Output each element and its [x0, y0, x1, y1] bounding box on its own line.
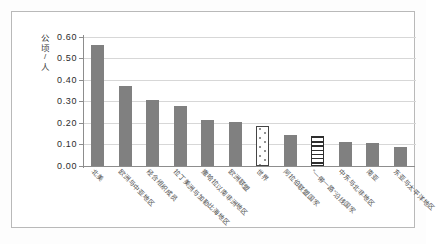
bar-slot: [139, 37, 167, 166]
y-tick-label: 0.60: [57, 32, 77, 42]
bar-slot: [332, 37, 360, 166]
bar-slot: [167, 37, 195, 166]
bar[interactable]: [91, 45, 104, 165]
y-tick-label: 0.40: [57, 75, 77, 85]
bar[interactable]: [284, 135, 297, 165]
bar[interactable]: [366, 143, 379, 166]
bar[interactable]: [201, 120, 214, 165]
y-tick-label: 0.20: [57, 118, 77, 128]
x-axis-label: 撒哈拉以南非洲地区: [200, 168, 249, 217]
bar-slot: [222, 37, 250, 166]
bar-slot: [112, 37, 140, 166]
x-axis-label: 东亚与太平洋地区: [392, 168, 436, 212]
bar[interactable]: [174, 106, 187, 165]
bar-slot: [304, 37, 332, 166]
x-axis-label: 北美: [90, 168, 105, 183]
bar[interactable]: [394, 147, 407, 165]
bar-slot: [387, 37, 415, 166]
bar-slot: [84, 37, 112, 166]
y-axis-title-char-3: /: [35, 52, 55, 62]
bar[interactable]: [119, 86, 132, 166]
bar[interactable]: [311, 136, 324, 165]
y-tick-label: 0.50: [57, 53, 77, 63]
x-axis-line: [83, 166, 415, 167]
bar-slot: [277, 37, 305, 166]
x-axis-label: 世界: [255, 168, 270, 183]
y-tick-label: 0.30: [57, 96, 77, 106]
bar[interactable]: [256, 126, 269, 166]
y-axis-title-char-4: 人: [35, 63, 55, 73]
bar-slot: [194, 37, 222, 166]
y-tick-label: 0.00: [57, 161, 77, 171]
y-tick-label: 0.10: [57, 139, 77, 149]
x-axis-label: 南亚: [365, 168, 380, 183]
figure-frame: 公 顷 / 人 0.600.500.400.300.200.100.00 北美欧…: [11, 11, 415, 228]
bar[interactable]: [229, 122, 242, 166]
bar-slot: [249, 37, 277, 166]
bar[interactable]: [146, 100, 159, 165]
y-axis-title: 公 顷 / 人: [35, 34, 55, 72]
y-tick-mark: [79, 166, 84, 167]
x-axis-label: 拉丁美洲与加勒比海地区: [172, 168, 231, 227]
bar[interactable]: [339, 142, 352, 166]
x-axis-label: 欧洲联盟: [227, 168, 251, 192]
plot-area: 0.600.500.400.300.200.100.00: [84, 37, 414, 166]
x-axis-category-labels: 北美欧洲与中亚地区经合组织成员拉丁美洲与加勒比海地区撒哈拉以南非洲地区欧洲联盟世…: [84, 168, 414, 238]
bar-slot: [359, 37, 387, 166]
